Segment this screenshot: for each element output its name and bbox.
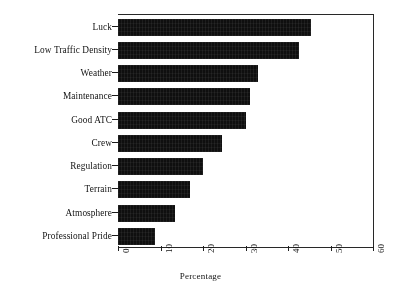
category-label: Regulation xyxy=(0,161,112,171)
bar-atmosphere xyxy=(118,205,175,222)
bar-luck xyxy=(118,19,311,36)
x-tick xyxy=(118,246,119,251)
x-axis-title-text: Percentage xyxy=(180,271,221,281)
x-tick-label: 40 xyxy=(292,244,301,253)
category-axis: Luck Low Traffic Density Weather Mainten… xyxy=(0,14,112,246)
category-label: Luck xyxy=(0,22,112,32)
bar-maintenance xyxy=(118,88,250,105)
x-tick-label: 0 xyxy=(122,249,131,254)
bar-low-traffic-density xyxy=(118,42,299,59)
bar-chart: Luck Low Traffic Density Weather Mainten… xyxy=(0,0,399,294)
category-label: Maintenance xyxy=(0,91,112,101)
x-tick-label: 10 xyxy=(165,244,174,253)
category-label: Good ATC xyxy=(0,115,112,125)
x-tick-label: 20 xyxy=(207,244,216,253)
x-tick xyxy=(246,246,247,251)
x-tick xyxy=(161,246,162,251)
x-tick-label: 30 xyxy=(250,244,259,253)
bar-crew xyxy=(118,135,222,152)
x-tick xyxy=(331,246,332,251)
category-label: Professional Pride xyxy=(0,231,112,241)
bar-professional-pride xyxy=(118,228,155,245)
bar-regulation xyxy=(118,158,203,175)
category-label: Weather xyxy=(0,68,112,78)
x-tick-label: 50 xyxy=(335,244,344,253)
x-axis-title: Percentage xyxy=(0,271,399,281)
x-tick xyxy=(288,246,289,251)
value-axis: 0 10 20 30 40 50 60 xyxy=(118,246,374,294)
category-label: Crew xyxy=(0,138,112,148)
category-label: Terrain xyxy=(0,184,112,194)
x-tick xyxy=(373,246,374,251)
plot-area xyxy=(118,14,374,248)
category-label: Low Traffic Density xyxy=(0,45,112,55)
x-tick xyxy=(203,246,204,251)
x-tick-label: 60 xyxy=(377,244,386,253)
category-label: Atmosphere xyxy=(0,208,112,218)
bar-terrain xyxy=(118,181,190,198)
bar-weather xyxy=(118,65,258,82)
bar-good-atc xyxy=(118,112,246,129)
